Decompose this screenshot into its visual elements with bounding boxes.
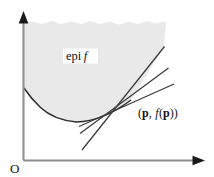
x-axis-arrow-icon <box>193 156 206 166</box>
tangent-point-label: (p, f(p)) <box>138 106 178 120</box>
epigraph-label-roman: epi <box>66 49 82 63</box>
point-label-close-paren: ) <box>174 106 178 120</box>
epigraph-label-group: epif <box>63 49 98 64</box>
origin-label: O <box>10 161 19 176</box>
epigraph-figure: epif (p, f(p)) O <box>0 0 214 177</box>
point-label-comma: , <box>149 106 155 120</box>
epigraph-label: epif <box>66 49 89 63</box>
figure-canvas: epif (p, f(p)) O <box>0 0 214 177</box>
y-axis-arrow-icon <box>19 11 29 24</box>
